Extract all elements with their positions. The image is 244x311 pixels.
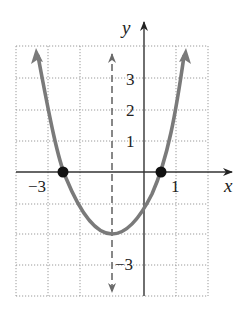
x-axis-label: x	[223, 175, 233, 196]
tick-label-y-1: 1	[126, 132, 135, 151]
curve-arrow-left-icon	[31, 48, 43, 64]
tick-label-y-neg3: −3	[115, 255, 133, 274]
tick-label-x-1: 1	[171, 177, 180, 196]
parabola-graph: y x −3 1 3 2 1 −3	[0, 0, 244, 311]
y-axis-label: y	[120, 17, 131, 38]
tick-label-x-neg3: −3	[28, 177, 46, 196]
tick-label-y-2: 2	[126, 101, 135, 120]
x-intercept-left	[58, 167, 69, 178]
tick-label-y-3: 3	[126, 70, 135, 89]
parabola-curve	[38, 56, 184, 234]
x-intercept-right	[156, 167, 167, 178]
